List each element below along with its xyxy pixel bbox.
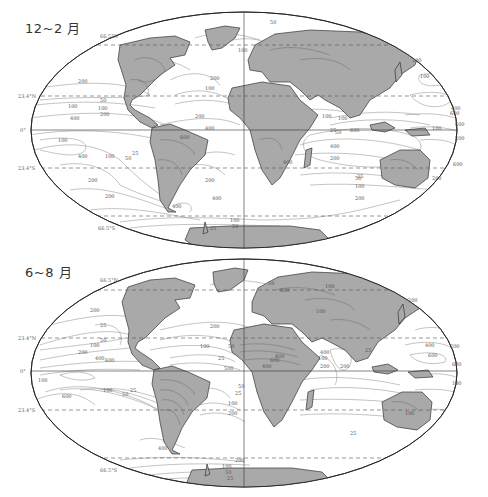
contour-label: 400 <box>425 342 435 348</box>
lat-label-tropic-n-jja: 23.4°N <box>18 335 37 341</box>
contour-label: 25 <box>227 475 233 481</box>
contour-label: 600 <box>455 121 465 127</box>
contour-label: 400 <box>95 355 105 361</box>
contour-label: 400 <box>172 203 182 209</box>
contour-label: 400 <box>262 363 272 369</box>
contour-label: 100 <box>105 153 115 159</box>
contour-label: 200 <box>90 307 100 313</box>
lat-label-equator-jja: 0° <box>20 368 26 374</box>
contour-label: 100 <box>432 125 442 131</box>
contour-label: 50 <box>100 337 106 343</box>
contour-label: 600 <box>280 287 290 293</box>
contour-label: 200 <box>355 195 365 201</box>
contour-label: 200 <box>195 113 205 119</box>
contour-label: 200 <box>432 175 442 181</box>
contour-label: 200 <box>228 410 238 416</box>
contour-label: 200 <box>100 111 110 117</box>
contour-label: 100 <box>58 137 68 143</box>
contour-label: 100 <box>103 387 113 393</box>
contour-label: 25 <box>218 355 224 361</box>
contour-label: 400 <box>320 349 330 355</box>
lat-label-arctic-djf: 66.5°N <box>100 33 119 39</box>
contour-label: 200 <box>408 297 418 303</box>
contour-label: 200 <box>78 78 88 84</box>
contour-label: 600 <box>428 352 438 358</box>
contour-label: 50 <box>125 155 131 161</box>
contour-label: 100 <box>338 115 348 121</box>
contour-label: 400 <box>283 159 293 165</box>
contour-label: 400 <box>158 445 168 451</box>
contour-label: 400 <box>451 105 461 111</box>
contour-label: 100 <box>452 380 462 386</box>
lat-label-tropic-s-djf: 23.4°S <box>18 165 36 171</box>
map-panel-djf: 12~2 月 <box>0 0 488 250</box>
contour-label: 100 <box>322 113 332 119</box>
contour-label: 600 <box>105 357 115 363</box>
contour-label: 100 <box>205 85 215 91</box>
contour-label: 100 <box>38 377 48 383</box>
lat-label-tropic-s-jja: 23.4°S <box>18 407 36 413</box>
lat-label-antarctic-djf: 66.5°S <box>98 225 116 231</box>
lat-label-arctic-jja: 66.5°N <box>100 277 119 283</box>
contour-label: 200 <box>88 177 98 183</box>
contour-label: 400 <box>330 143 340 149</box>
contour-label: 100 <box>318 355 328 361</box>
contour-label: 400 <box>70 115 80 121</box>
contour-label: 25 <box>130 387 136 393</box>
contour-label: 500 <box>224 365 234 371</box>
contour-label: 200 <box>412 57 422 63</box>
contour-label: 600 <box>453 161 463 167</box>
contour-label: 100 <box>90 342 100 348</box>
contour-label: 25 <box>235 390 241 396</box>
contour-label: 50 <box>228 343 234 349</box>
contour-label: 200 <box>205 177 215 183</box>
contour-label: 50 <box>335 129 341 135</box>
lat-label-tropic-n-djf: 23.4°N <box>18 93 37 99</box>
contour-label: 200 <box>210 75 220 81</box>
contour-label: 200 <box>78 349 88 355</box>
contour-label: 50 <box>232 223 238 229</box>
contour-label: 25 <box>350 430 356 436</box>
contour-label: 100 <box>355 183 365 189</box>
contour-label: 200 <box>320 363 330 369</box>
contour-label: 200 <box>105 193 115 199</box>
contour-label: 400 <box>212 195 222 201</box>
contour-label: 600 <box>350 127 360 133</box>
contour-label: 50 <box>238 383 244 389</box>
contour-label: 25 <box>100 322 106 328</box>
map-panel-jja: 6~8 月 <box>0 250 488 497</box>
contour-label: 800 <box>275 353 285 359</box>
contour-label: 25 <box>365 347 371 353</box>
contour-label: 100 <box>420 73 430 79</box>
map-jja: 66.5°N 23.4°N 0° 23.4°S 66.5°S 200255010… <box>0 250 488 497</box>
contour-label: 50 <box>268 280 274 286</box>
contour-label: 600 <box>452 361 462 367</box>
contour-label: 100 <box>325 283 335 289</box>
contour-label: 600 <box>180 134 190 140</box>
contour-label: 50 <box>270 19 276 25</box>
contour-label: 25 <box>132 150 138 156</box>
contour-label: 400 <box>78 153 88 159</box>
contour-label: 50 <box>122 391 128 397</box>
contour-label: 100 <box>68 103 78 109</box>
contour-label: 200 <box>340 363 350 369</box>
contour-label: 100 <box>238 47 248 53</box>
contour-label: 100 <box>228 400 238 406</box>
contour-label: 25 <box>357 173 363 179</box>
lat-label-antarctic-jja: 66.5°S <box>100 467 118 473</box>
contour-label: 100 <box>405 410 415 416</box>
contour-label: 50 <box>100 97 106 103</box>
contour-label: 600 <box>62 393 72 399</box>
contour-label: 100 <box>200 343 210 349</box>
contour-label: 400 <box>205 125 215 131</box>
contour-label: 25 <box>210 225 216 231</box>
map-djf: 66.5°N 23.4°N 0° 23.4°S 66.5°S 200100501… <box>0 0 488 250</box>
contour-label: 100 <box>316 308 326 314</box>
lat-label-equator-djf: 0° <box>20 127 26 133</box>
contour-label: 200 <box>450 343 460 349</box>
contour-label: 200 <box>210 323 220 329</box>
contour-label: 200 <box>235 457 245 463</box>
contour-label: 200 <box>455 135 465 141</box>
contour-label: 200 <box>330 155 340 161</box>
